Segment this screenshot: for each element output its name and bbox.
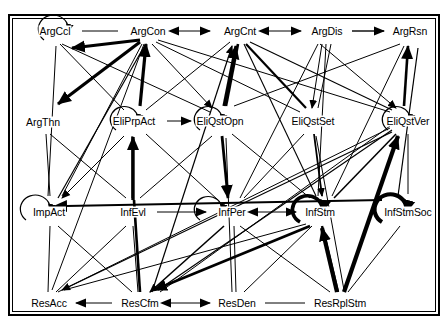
edge-impact-rescfm — [58, 226, 132, 292]
node-argccl[interactable]: ArgCcl — [39, 26, 72, 37]
edge-argdis-eliqstver-a — [320, 44, 396, 108]
node-eliqstopn[interactable]: EliQstOpn — [196, 116, 245, 127]
node-infstm[interactable]: InfStm — [304, 207, 336, 218]
figure-canvas: ArgCcl ArgCon ArgCnt ArgDis ArgRsn ArgTh… — [0, 0, 448, 327]
node-argcnt[interactable]: ArgCnt — [223, 26, 257, 37]
node-argdis[interactable]: ArgDis — [311, 26, 344, 37]
edge-argcon-resacc — [52, 44, 144, 290]
edge-infevl-resacc — [56, 226, 126, 292]
node-argthn[interactable]: ArgThn — [25, 117, 61, 128]
edge-argcon-argccl — [72, 40, 140, 48]
edge-argcnt-eliqstopn — [226, 44, 238, 106]
node-eliprpact[interactable]: EliPrpAct — [112, 116, 156, 127]
edge-argccl-eliprpact — [60, 44, 124, 110]
node-infstmsoc[interactable]: InfStmSoc — [383, 207, 433, 218]
edge-argcon-eliqstver — [158, 40, 390, 112]
node-impact[interactable]: ImpAct — [32, 207, 66, 218]
node-eliqstset[interactable]: EliQstSet — [291, 116, 336, 127]
edge-argcnt-eliprpact — [146, 42, 230, 110]
node-rescfm[interactable]: ResCfm — [120, 298, 159, 309]
edge-infper-resden — [234, 226, 236, 292]
node-argcon[interactable]: ArgCon — [129, 26, 166, 37]
edge-impact-resacc — [48, 226, 50, 292]
node-resden[interactable]: ResDen — [217, 298, 256, 309]
node-infevl[interactable]: InfEvl — [119, 207, 147, 218]
node-argrsn[interactable]: ArgRsn — [392, 26, 428, 37]
edge-infstm-resrplstm — [322, 226, 338, 292]
edge-eliqstver-argrsn — [404, 46, 408, 106]
node-infper[interactable]: InfPer — [217, 207, 246, 218]
graph-edges-layer — [0, 0, 448, 327]
node-resrplstm[interactable]: ResRplStm — [313, 298, 367, 309]
edge-infstm-resacc — [64, 224, 306, 290]
node-resacc[interactable]: ResAcc — [30, 298, 68, 309]
edge-eliqstopn-infstm — [232, 134, 310, 198]
edge-argthn-infevl — [50, 134, 126, 198]
edge-eliqstopn-infevl — [140, 136, 212, 198]
node-eliqstver[interactable]: EliQstVer — [386, 116, 431, 127]
edge-infper-rescfm — [150, 226, 224, 292]
edge-eliprpact-infper — [146, 134, 218, 200]
edge-argccl-eliqstopn — [62, 44, 210, 112]
edge-argthn-argccl — [58, 42, 140, 104]
edge-eliqstver-rescfm — [158, 130, 392, 290]
